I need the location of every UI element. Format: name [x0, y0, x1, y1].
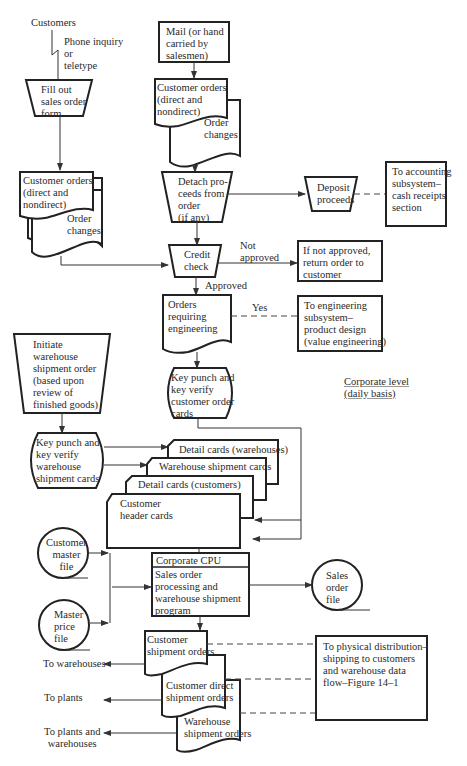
- phone-link: [52, 30, 58, 85]
- engineering-subsystem[interactable]: To engineering subsystem– product design…: [304, 300, 386, 348]
- customer-orders-right[interactable]: Customer orders (direct and nondirect): [157, 82, 227, 118]
- to-warehouses-label: To warehouses: [43, 658, 106, 670]
- accounting-subsystem[interactable]: To accounting subsystem– cash receipts s…: [392, 166, 452, 214]
- to-plants-warehouses-label: To plants and warehouses: [44, 726, 100, 750]
- cpu-program[interactable]: Sales order processing and warehouse shi…: [155, 569, 241, 617]
- not-approved-label: Not approved: [240, 240, 279, 264]
- mail-box[interactable]: Mail (or hand carried by salesmen): [166, 26, 224, 62]
- to-plants-label: To plants: [44, 692, 83, 704]
- card-detail-warehouses[interactable]: Detail cards (warehouses): [179, 444, 288, 456]
- keypunch-customer-cards[interactable]: Key punch and key verify customer order …: [171, 372, 235, 420]
- customers-label: Customers: [31, 17, 76, 29]
- yes-label: Yes: [252, 302, 267, 314]
- card-customer-header[interactable]: Customer header cards: [120, 498, 173, 522]
- order-changes-left: Order changes: [67, 213, 101, 237]
- keypunch-warehouse-cards[interactable]: Key punch and key verify warehouse shipm…: [36, 437, 100, 485]
- deposit-proceeds[interactable]: Deposit proceeds: [317, 182, 354, 206]
- customer-master-file[interactable]: Customer master file: [46, 537, 87, 573]
- order-changes-right: Order changes: [204, 117, 238, 141]
- customer-orders-left[interactable]: Customer orders (direct and nondirect): [23, 175, 93, 211]
- approved-label: Approved: [205, 280, 247, 292]
- return-order-box[interactable]: If not approved, return order to custome…: [303, 245, 370, 281]
- initiate-warehouse-order[interactable]: Initiate warehouse shipment order (based…: [33, 339, 98, 411]
- sales-order-file[interactable]: Sales order file: [326, 570, 348, 606]
- physical-distribution-box[interactable]: To physical distribution– shipping to cu…: [323, 641, 428, 689]
- phone-inquiry-label: Phone inquiry or teletype: [64, 36, 123, 72]
- warehouse-shipment-orders[interactable]: Warehouse shipment orders: [184, 716, 251, 740]
- customer-shipment-orders[interactable]: Customer shipment orders: [147, 634, 214, 658]
- fill-out-form[interactable]: Fill out sales order form: [41, 84, 86, 120]
- detach-proceeds[interactable]: Detach pro- ceeds from order (if any): [178, 176, 228, 224]
- customer-direct-shipment-orders[interactable]: Customer direct shipment orders: [166, 680, 233, 704]
- card-detail-customers[interactable]: Detail cards (customers): [138, 479, 241, 491]
- card-warehouse-shipment[interactable]: Warehouse shipment cards: [159, 461, 271, 473]
- cpu-title: Corporate CPU: [156, 555, 221, 567]
- master-price-file[interactable]: Master price file: [54, 609, 83, 645]
- corporate-level-caption: Corporate level (daily basis): [344, 376, 409, 400]
- credit-check[interactable]: Credit check: [184, 249, 210, 273]
- orders-requiring-engineering[interactable]: Orders requiring engineering: [168, 299, 218, 335]
